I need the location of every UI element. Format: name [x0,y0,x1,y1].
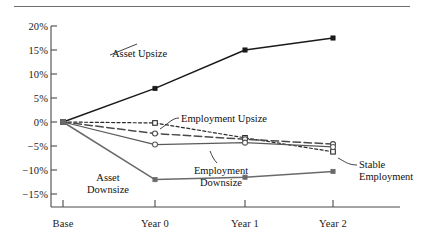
series-stable-employment [61,120,336,147]
y-axis-ticks [51,26,57,194]
datapoint-employment-upsize-year-0 [153,121,158,126]
series-layer [61,36,336,182]
datapoint-asset-downsize-year-2 [331,169,335,173]
datapoint-asset-downsize-year-0 [153,178,157,182]
series-line-employment-downsize [63,122,333,147]
series-asset-upsize [61,36,335,124]
series-line-stable-employment [63,122,333,144]
x-axis-ticks [63,200,333,207]
series-line-asset-upsize [63,38,333,122]
series-employment-downsize [61,120,336,150]
series-asset-downsize [61,120,335,182]
datapoint-employment-downsize-year-2 [331,144,336,149]
leader-stable-employment [338,158,357,165]
leader-employment-upsize [160,118,179,129]
datapoint-asset-upsize-year-0 [153,86,157,90]
datapoint-asset-upsize-year-2 [331,36,335,40]
datapoint-asset-upsize-year-1 [243,48,247,52]
figure-container: 20% 15% 10% 5% 0% −5% −10% −15% Base Yea… [0,0,422,243]
datapoint-employment-downsize-year-1 [243,140,248,145]
datapoint-asset-downsize-year-1 [243,175,247,179]
chart-plot-area [0,0,422,243]
leader-asset-upsize [110,44,137,55]
leader-employment-downsize [210,151,217,163]
datapoint-stable-employment-year-0 [153,131,158,136]
datapoint-asset-downsize-base [61,120,65,124]
datapoint-employment-downsize-year-0 [153,142,158,147]
datapoint-employment-upsize-year-2 [331,149,336,154]
